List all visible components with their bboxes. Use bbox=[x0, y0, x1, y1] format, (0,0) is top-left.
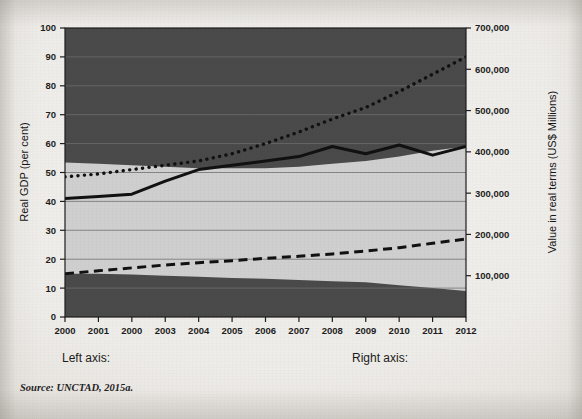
x-tick-label: 2009 bbox=[355, 325, 376, 336]
y-axis-left: 0102030405060708090100 bbox=[40, 22, 65, 322]
y-left-tick-label: 40 bbox=[45, 196, 56, 207]
x-tick-label: 2010 bbox=[389, 325, 410, 336]
y-axis-right-title: Value in real terms (US$ Millions) bbox=[546, 91, 558, 253]
x-tick-label: 2008 bbox=[322, 325, 343, 336]
x-tick-label: 2011 bbox=[422, 325, 443, 336]
x-tick-label: 2001 bbox=[88, 325, 110, 336]
y-axis-right: 100,000200,000300,000400,000500,000600,0… bbox=[466, 22, 509, 281]
x-tick-label: 2004 bbox=[188, 325, 210, 336]
y-left-tick-label: 90 bbox=[45, 51, 56, 62]
y-left-tick-label: 60 bbox=[45, 138, 56, 149]
chart-canvas: 0102030405060708090100 100,000200,000300… bbox=[0, 0, 582, 419]
legend-right-axis-label: Right axis: bbox=[352, 351, 408, 365]
x-tick-label: 2012 bbox=[455, 325, 476, 336]
legend-left-axis-label: Left axis: bbox=[62, 351, 110, 365]
source-note: Source: UNCTAD, 2015a. bbox=[20, 382, 133, 393]
x-tick-label: 2000 bbox=[121, 325, 142, 336]
x-tick-label: 2005 bbox=[222, 325, 244, 336]
y-left-tick-label: 50 bbox=[45, 167, 56, 178]
figure-page: 0102030405060708090100 100,000200,000300… bbox=[0, 0, 582, 419]
y-right-tick-label: 700,000 bbox=[475, 22, 509, 33]
x-tick-label: 2003 bbox=[155, 325, 176, 336]
y-left-tick-label: 100 bbox=[40, 22, 56, 33]
y-axis-left-title: Real GDP (per cent) bbox=[18, 122, 30, 221]
y-left-tick-label: 70 bbox=[45, 109, 56, 120]
x-axis: 2000200120002003200420052006200720082009… bbox=[54, 317, 476, 336]
y-right-tick-label: 500,000 bbox=[475, 105, 509, 116]
y-right-tick-label: 300,000 bbox=[475, 188, 509, 199]
x-tick-label: 2007 bbox=[288, 325, 309, 336]
y-right-tick-label: 600,000 bbox=[475, 64, 509, 75]
y-left-tick-label: 80 bbox=[45, 80, 56, 91]
y-left-tick-label: 10 bbox=[45, 283, 56, 294]
y-left-tick-label: 30 bbox=[45, 225, 56, 236]
y-right-tick-label: 200,000 bbox=[475, 229, 509, 240]
y-left-tick-label: 0 bbox=[51, 311, 56, 322]
y-right-tick-label: 100,000 bbox=[475, 270, 509, 281]
x-tick-label: 2006 bbox=[255, 325, 276, 336]
x-tick-label: 2000 bbox=[54, 325, 75, 336]
y-right-tick-label: 400,000 bbox=[475, 146, 509, 157]
y-left-tick-label: 20 bbox=[45, 254, 56, 265]
